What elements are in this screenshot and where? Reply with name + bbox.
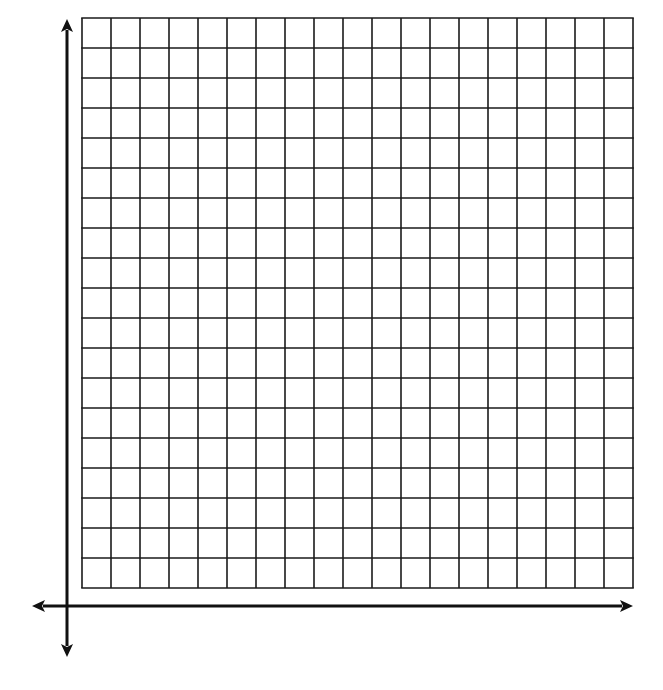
coordinate-grid-diagram (0, 0, 663, 690)
axes (32, 19, 633, 657)
grid (81, 18, 634, 588)
